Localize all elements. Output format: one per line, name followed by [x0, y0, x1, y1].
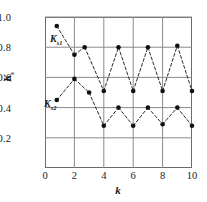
data-point-Ks1 [82, 45, 87, 50]
data-point-Ks2 [190, 123, 195, 128]
x-tick-label: 8 [160, 170, 165, 181]
series-line-Ks2 [119, 108, 134, 126]
x-tick-label: 0 [42, 170, 47, 181]
y-tick-label: 0.8 [0, 42, 11, 53]
series-line-Ks1 [163, 46, 178, 91]
y-tick-label: 0.4 [0, 102, 11, 113]
y-tick-label: 0.2 [0, 132, 11, 143]
data-point-Ks2 [102, 123, 107, 128]
chart-figure: 0.20.40.60.81.0 0246810 Ks k Ks1 Ks2 [0, 0, 207, 202]
data-point-Ks2 [72, 77, 77, 82]
y-axis-title-sub: s [8, 72, 16, 75]
data-point-Ks1 [190, 89, 195, 94]
data-series-layer [54, 24, 194, 128]
x-tick-label: 6 [131, 170, 136, 181]
y-tick-label: 1.0 [0, 12, 11, 23]
series-line-Ks2 [133, 108, 148, 126]
data-point-Ks1 [131, 89, 136, 94]
data-point-Ks1 [175, 43, 180, 48]
series-label-ks1: Ks1 [50, 33, 62, 46]
x-tick-label: 2 [72, 170, 77, 181]
series-label-ks2-main: K [44, 98, 51, 109]
series-line-Ks1 [133, 47, 148, 91]
x-tick-label: 10 [187, 170, 198, 181]
series-label-ks1-sub: s1 [57, 39, 63, 46]
series-line-Ks1 [85, 47, 104, 91]
series-line-Ks2 [74, 79, 89, 93]
y-axis-title-main: K [1, 75, 13, 82]
series-line-Ks2 [57, 79, 75, 100]
series-line-Ks2 [148, 108, 163, 125]
series-line-Ks2 [163, 108, 178, 125]
data-point-Ks2 [87, 90, 92, 95]
series-line-Ks2 [89, 93, 104, 126]
series-label-ks1-main: K [50, 33, 57, 44]
series-label-ks2-sub: s2 [51, 104, 57, 111]
gridlines [45, 17, 192, 168]
data-point-Ks1 [54, 24, 59, 29]
series-line-Ks1 [177, 46, 192, 91]
data-point-Ks1 [102, 89, 107, 94]
series-line-Ks1 [104, 47, 119, 91]
data-point-Ks1 [146, 45, 151, 50]
series-line-Ks1 [148, 47, 163, 91]
data-point-Ks2 [160, 122, 165, 127]
data-point-Ks1 [160, 89, 165, 94]
series-line-Ks2 [104, 108, 119, 126]
x-axis-title: k [115, 184, 121, 196]
data-point-Ks2 [131, 123, 136, 128]
y-axis-title: Ks [1, 72, 16, 82]
data-point-Ks2 [175, 105, 180, 110]
series-line-Ks1 [119, 47, 134, 91]
data-point-Ks1 [72, 52, 77, 57]
data-point-Ks2 [146, 105, 151, 110]
data-point-Ks2 [116, 105, 121, 110]
series-label-ks2: Ks2 [44, 98, 56, 111]
series-line-Ks2 [177, 108, 192, 126]
x-tick-label: 4 [101, 170, 106, 181]
data-point-Ks1 [116, 45, 121, 50]
